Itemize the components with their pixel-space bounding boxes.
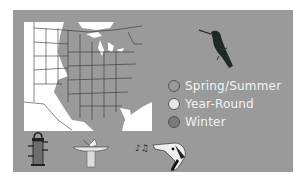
tube-feeder-icon [26,130,50,168]
svg-text:♪♫: ♪♫ [135,143,149,153]
range-map-graphic [24,22,152,131]
legend-item-year-round: Year-Round [168,95,281,113]
legend-label: Winter [185,115,226,129]
range-map [24,22,152,131]
legend-item-winter: Winter [168,113,281,131]
singing-bird-icon: ♪♫ [135,139,199,173]
legend-item-spring-summer: Spring/Summer [168,77,281,95]
year-round-swatch [168,98,180,110]
birdbath-icon [71,137,111,169]
range-legend: Spring/Summer Year-Round Winter [168,77,281,131]
spring-summer-swatch [168,80,180,92]
range-map-panel: Spring/Summer Year-Round Winter ♪♫ [13,10,293,172]
hummingbird-icon [199,26,239,74]
winter-swatch [168,116,180,128]
legend-label: Year-Round [185,97,254,111]
legend-label: Spring/Summer [185,79,281,93]
